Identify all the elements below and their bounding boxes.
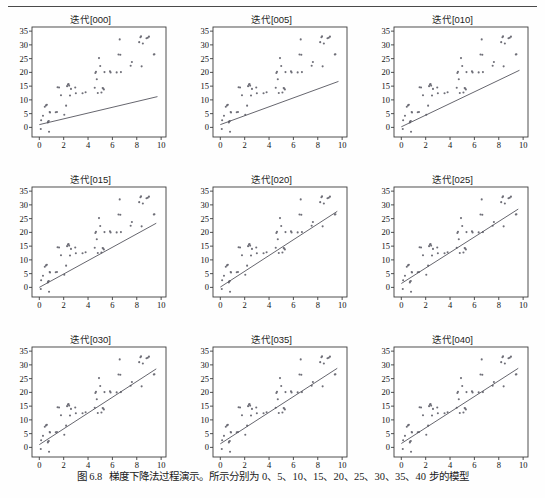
scatter-point (263, 92, 265, 94)
scatter-point (502, 35, 504, 37)
subplot-canvas (181, 172, 362, 332)
scatter-point (430, 405, 432, 407)
scatter-point (95, 71, 97, 73)
scatter-point (465, 71, 467, 73)
scatter-point (250, 94, 252, 96)
scatter-point (140, 35, 142, 37)
scatter-point (404, 435, 406, 437)
scatter-point (322, 385, 324, 387)
scatter-point (284, 88, 286, 90)
scatter-point (410, 451, 412, 453)
scatter-point (300, 198, 302, 200)
scatter-point (276, 231, 278, 233)
plot-frame (213, 347, 347, 457)
scatter-point (97, 252, 99, 254)
scatter-point (425, 274, 427, 276)
scatter-point (141, 65, 143, 67)
scatter-point (227, 264, 229, 266)
scatter-point (119, 54, 121, 56)
scatter-point (142, 42, 144, 44)
scatter-point (241, 94, 243, 96)
scatter-point (504, 202, 506, 204)
scatter-point (323, 362, 325, 364)
scatter-point (69, 254, 71, 256)
scatter-point (472, 71, 474, 73)
scatter-point (437, 92, 439, 94)
scatter-point (42, 115, 44, 117)
scatter-point (300, 214, 302, 216)
scatter-point (223, 275, 225, 277)
scatter-point (481, 374, 483, 376)
scatter-point (117, 373, 119, 375)
scatter-point (427, 105, 429, 107)
scatter-point (410, 280, 412, 282)
scatter-point (319, 201, 321, 203)
scatter-point (255, 406, 257, 408)
scatter-point (153, 213, 155, 215)
scatter-point (431, 414, 433, 416)
plot-frame (32, 347, 166, 457)
scatter-point (266, 251, 268, 253)
scatter-point (40, 128, 42, 130)
scatter-point (119, 358, 121, 360)
scatter-point (119, 38, 121, 40)
scatter-point (334, 53, 336, 55)
scatter-point (60, 254, 62, 256)
scatter-point (280, 385, 282, 387)
scatter-point (119, 198, 121, 200)
scatter-point (404, 275, 406, 277)
plot-frame (213, 27, 347, 137)
scatter-point (140, 195, 142, 197)
scatter-point (138, 361, 140, 363)
scatter-point (275, 87, 277, 89)
scatter-point (239, 86, 241, 88)
scatter-point (94, 87, 96, 89)
scatter-point (60, 414, 62, 416)
scatter-point (481, 198, 483, 200)
scatter-point (402, 279, 404, 281)
scatter-point (68, 245, 70, 247)
scatter-point (40, 279, 42, 281)
scatter-point (465, 408, 467, 410)
scatter-point (492, 65, 494, 67)
scatter-point (221, 439, 223, 441)
scatter-point (465, 231, 467, 233)
scatter-point (266, 91, 268, 93)
scatter-point (321, 35, 323, 37)
scatter-point (241, 254, 243, 256)
scatter-point (515, 53, 517, 55)
scatter-point (223, 435, 225, 437)
scatter-point (465, 248, 467, 250)
scatter-point (432, 88, 434, 90)
page-top-rule (8, 6, 537, 7)
scatter-point (457, 231, 459, 233)
scatter-point (277, 398, 279, 400)
scatter-point (404, 115, 406, 117)
scatter-point (503, 65, 505, 67)
scatter-point (103, 88, 105, 90)
subplot-panel: 迭代[015]051015202530350246810 (0, 172, 181, 332)
subplot-canvas (362, 12, 543, 172)
scatter-point (410, 440, 412, 442)
scatter-point (436, 406, 438, 408)
scatter-point (74, 246, 76, 248)
scatter-point (430, 85, 432, 87)
scatter-point (63, 114, 65, 116)
subplot-canvas (362, 172, 543, 332)
scatter-point (410, 291, 412, 293)
scatter-point (246, 105, 248, 107)
scatter-point (462, 251, 464, 253)
scatter-point (95, 391, 97, 393)
scatter-point (40, 288, 42, 290)
scatter-point (458, 78, 460, 80)
scatter-point (99, 225, 101, 227)
scatter-point (321, 195, 323, 197)
scatter-point (408, 424, 410, 426)
scatter-point (241, 414, 243, 416)
scatter-point (457, 71, 459, 73)
scatter-point (458, 398, 460, 400)
scatter-point (244, 274, 246, 276)
scatter-point (301, 71, 303, 73)
scatter-point (56, 111, 58, 113)
scatter-point (244, 434, 246, 436)
